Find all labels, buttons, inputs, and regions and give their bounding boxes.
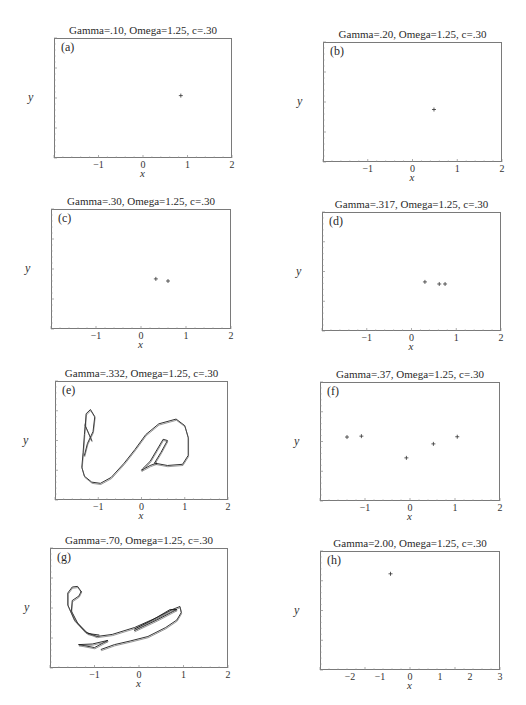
plot-area [0,0,526,705]
data-point-marker [389,572,393,576]
